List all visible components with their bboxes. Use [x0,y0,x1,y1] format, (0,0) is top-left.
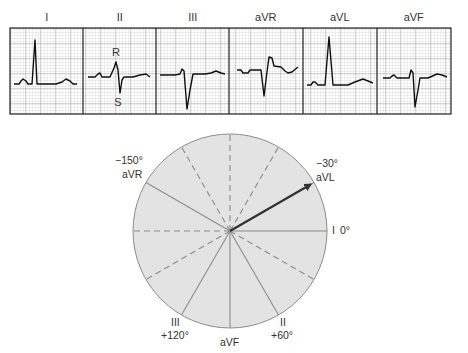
avl-name-label: aVL [316,171,335,183]
r-wave-label: R [112,46,120,58]
lead-label-avl: aVL [330,11,350,23]
lead-label-avf: aVF [404,11,424,23]
lead-i-name-label: I [332,224,335,236]
avl-degree-label: −30° [316,157,338,169]
avf-name-label: aVF [220,336,239,348]
avr-name-label: aVR [122,168,143,180]
lead-ii-name-label: II [280,316,286,328]
hexaxial-diagram: −150° aVR −30° aVL I 0° III +120° aVF II… [115,134,350,348]
lead-iii-name-label: III [171,316,180,328]
lead-ii-degree-label: +60° [271,329,293,341]
lead-label-iii: III [188,11,197,23]
ecg-strip: IIIIIIaVRaVLaVF R S [10,11,451,114]
s-wave-label: S [114,96,121,108]
lead-iii-degree-label: +120° [161,329,189,341]
ecg-axis-figure: IIIIIIaVRaVLaVF R S −150° aVR −30° aVL I… [0,0,468,353]
lead-i-degree-label: 0° [340,224,350,236]
lead-label-avr: aVR [255,11,276,23]
lead-label-i: I [45,11,48,23]
avr-degree-label: −150° [115,154,143,166]
lead-label-ii: II [117,11,123,23]
ecg-grid-background [10,28,451,114]
lead-labels: IIIIIIaVRaVLaVF [45,11,424,23]
